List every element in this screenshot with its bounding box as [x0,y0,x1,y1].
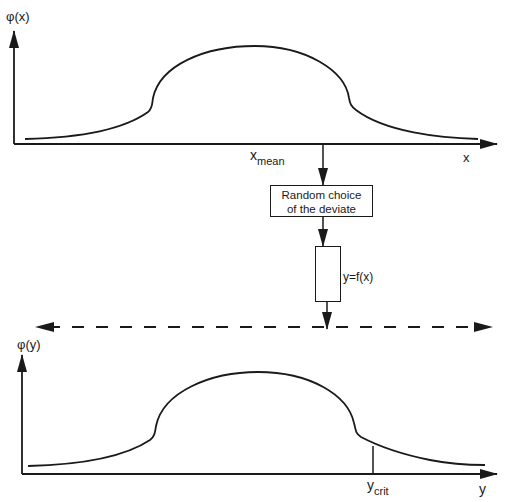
random-choice-box: Random choice of the deviate [270,185,373,217]
bottom-plot [22,355,497,474]
top-y-axis-label: φ(x) [6,10,30,23]
x-mean-main: x [250,147,257,163]
top-distribution-curve [25,46,478,139]
y-crit-main: y [367,477,374,493]
random-choice-line1: Random choice [271,188,372,202]
top-x-axis-label: x [463,151,470,164]
y-crit-label: ycrit [367,478,389,492]
transform-box [315,246,341,302]
top-plot [14,31,497,144]
y-crit-subscript: crit [374,485,389,497]
x-mean-label: xmean [250,148,285,162]
dashed-line-right-arrowhead [474,322,493,332]
diagram-canvas [0,0,509,502]
bottom-distribution-curve [28,372,485,466]
x-mean-subscript: mean [257,155,285,167]
transform-label: y=f(x) [343,271,373,283]
bottom-x-axis-label: y [479,482,486,496]
random-choice-line2: of the deviate [271,202,372,216]
bottom-y-axis-label: φ(y) [17,338,41,351]
dashed-line-left-arrowhead [35,322,54,332]
